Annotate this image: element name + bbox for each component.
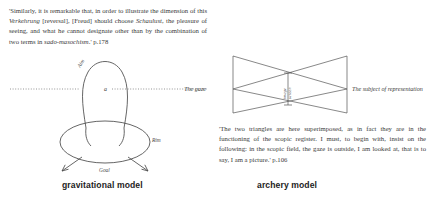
rim-ellipse <box>60 121 150 163</box>
gravitational-model-figure: Aim Rim Goal a <box>60 58 161 173</box>
drive-loop-path <box>83 62 128 129</box>
triangle-gaze <box>233 56 347 113</box>
drive-loop-tail-left <box>86 128 91 146</box>
archery-model-figure: image screen The gaze The subject of rep… <box>184 56 423 113</box>
goal-arrow-left-shaft <box>62 157 82 171</box>
triangle-subject <box>233 56 347 113</box>
label-screen: screen <box>287 87 292 99</box>
caption-archery-model: archery model <box>257 180 317 190</box>
drive-loop-tail-right <box>119 128 124 146</box>
caption-gravitational-model: gravitational model <box>62 180 143 190</box>
figures-layer: Aim Rim Goal a image screen The gaze Th <box>0 0 432 203</box>
goal-arrow-right-shaft <box>128 157 148 171</box>
label-goal: Goal <box>99 167 110 173</box>
diagram-page: 'Similarly, it is remarkable that, in or… <box>0 0 432 203</box>
label-aim: Aim <box>75 58 85 69</box>
label-subject-of-representation: The subject of representation <box>352 86 423 92</box>
label-the-gaze: The gaze <box>184 86 206 92</box>
label-rim: Rim <box>151 137 161 143</box>
label-objet-a: a <box>104 86 107 92</box>
